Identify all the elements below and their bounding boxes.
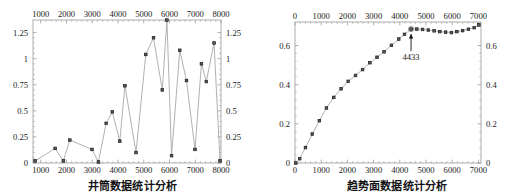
axis-tick-label: 6000 [444,11,461,21]
axis-tick-label: 7000 [187,9,204,19]
data-point-marker [213,42,216,45]
axis-tick-label: 5000 [135,165,152,175]
data-series-line [296,25,479,163]
axis-tick-label: 2000 [339,165,356,175]
data-point-marker [427,29,430,32]
data-point-marker [294,162,297,165]
data-point-marker [97,161,100,164]
data-point-marker [185,79,188,82]
axis-tick-label: 5000 [417,165,434,175]
axis-tick-label: 0 [286,158,290,168]
axis-tick-label: 0.4 [486,80,497,90]
axis-tick-label: 4000 [391,11,408,21]
data-point-marker [298,157,301,160]
data-point-marker [34,160,37,163]
data-series-line [35,20,220,162]
axis-tick-label: 1000 [32,165,49,175]
data-point-marker [54,147,57,150]
axis-tick-label: 3000 [365,165,382,175]
axis-tick-label: 2000 [339,11,356,21]
plot-frame [295,22,481,163]
axis-tick-label: 6000 [161,9,178,19]
axis-tick-label: 1.25 [226,28,241,38]
data-point-marker [124,84,127,87]
data-point-marker [304,146,307,149]
data-point-marker [347,80,350,83]
data-point-marker [161,89,164,92]
axis-tick-label: 2000 [58,165,75,175]
wellbore-statistics-chart: 1000200030004000500060007000800010002000… [0,0,265,195]
data-point-marker [361,68,364,71]
data-point-marker [170,154,173,157]
axis-tick-label: 8000 [212,9,229,19]
data-point-marker [340,87,343,90]
chart-caption-right: 趋势面数据统计分析 [265,177,529,193]
data-point-marker [421,28,424,31]
axis-tick-label: 0.6 [486,41,497,51]
data-point-marker [444,31,447,34]
data-point-marker [325,107,328,110]
axis-tick-label: 4000 [109,165,126,175]
data-point-marker [416,28,419,31]
data-point-marker [145,53,148,56]
data-point-marker [205,80,208,83]
axis-tick-label: 1000 [313,11,330,21]
axis-tick-label: 0 [293,165,297,175]
data-point-marker [311,133,314,136]
data-point-marker [194,148,197,151]
trend-surface-statistics-chart: 0100020003000400050006000700001000200030… [265,0,529,195]
axis-tick-label: 0.25 [13,132,28,142]
data-point-marker [318,119,321,122]
axis-tick-label: 4000 [109,9,126,19]
data-point-marker [166,19,169,22]
axis-tick-label: 0 [293,11,297,21]
data-point-marker [62,160,65,163]
axis-tick-label: 3000 [84,9,101,19]
axis-tick-label: 5000 [417,11,434,21]
data-point-marker [383,50,386,53]
axis-tick-label: 0.2 [279,119,290,129]
axis-tick-label: 5000 [135,9,152,19]
data-point-marker [390,44,393,47]
axis-tick-label: 0 [486,158,490,168]
data-point-marker [433,30,436,33]
axis-tick-label: 0.2 [486,119,497,129]
axis-tick-label: 7000 [470,165,487,175]
data-point-marker [456,30,459,33]
axis-tick-label: 0.25 [226,132,241,142]
axis-tick-label: 2000 [58,9,75,19]
axis-tick-label: 0.5 [17,106,28,116]
plot-frame [33,20,221,163]
data-point-marker [111,111,114,114]
data-point-marker [397,38,400,41]
data-point-marker [135,151,138,154]
axis-tick-label: 0 [226,158,230,168]
annotation-arrow-head [409,34,413,38]
axis-tick-label: 0.6 [279,41,290,51]
axis-tick-label: 1 [24,54,28,64]
axis-tick-label: 7000 [187,165,204,175]
axis-tick-label: 0.5 [226,106,237,116]
data-point-marker [467,28,470,31]
data-point-marker [410,28,413,31]
axis-tick-label: 1000 [32,9,49,19]
data-point-marker [473,26,476,29]
axis-tick-label: 7000 [470,11,487,21]
chart-panel-left: 1000200030004000500060007000800010002000… [0,0,265,195]
figure-root: 1000200030004000500060007000800010002000… [0,0,529,195]
data-point-marker [219,160,222,163]
axis-tick-label: 6000 [444,165,461,175]
annotation-label: 4433 [402,52,419,62]
data-point-marker [478,24,481,27]
data-point-marker [178,49,181,52]
axis-tick-label: 1 [226,54,230,64]
data-point-marker [332,96,335,99]
axis-tick-label: 0 [24,158,28,168]
data-point-marker [403,33,406,36]
axis-tick-label: 6000 [161,165,178,175]
data-point-marker [376,56,379,59]
axis-tick-label: 0.75 [13,80,28,90]
data-point-marker [354,74,357,77]
axis-tick-label: 4000 [391,165,408,175]
data-point-marker [152,36,155,39]
